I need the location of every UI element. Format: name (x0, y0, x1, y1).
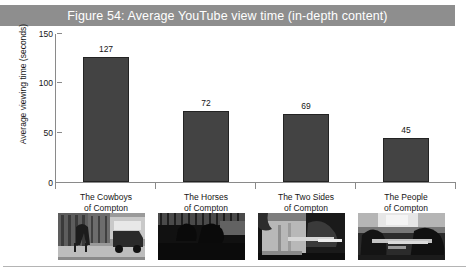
bar-value-the-horses-of-compton: 72 (176, 98, 236, 108)
bar-the-people-of-compton[interactable] (383, 138, 429, 182)
x-category-label-line2-1: of Compton (152, 203, 260, 214)
figure-caption-band: Figure 54: Average YouTube view time (in… (0, 5, 455, 26)
bar-chart: Average viewing time (seconds) 0 50 100 … (0, 26, 469, 208)
x-category-label-line2-0: of Compton (52, 203, 160, 214)
thumbnail-the-two-sides-of-compton[interactable] (258, 213, 345, 260)
y-tick-0: 0 (22, 178, 62, 188)
thumbnail-the-people-of-compton[interactable] (358, 213, 445, 260)
thumbnail-the-cowboys-of-compton[interactable] (58, 213, 145, 260)
x-category-label-the-cowboys-of-compton: The Cowboys of Compton (52, 192, 160, 213)
y-tick-label-0: 0 (48, 178, 53, 188)
y-axis-line (55, 34, 56, 183)
x-tick-mark-4 (455, 183, 456, 189)
bottom-divider (3, 266, 466, 267)
bar-the-horses-of-compton[interactable] (183, 111, 229, 182)
bar-value-the-cowboys-of-compton: 127 (76, 44, 136, 54)
bar-the-cowboys-of-compton[interactable] (83, 57, 129, 182)
x-tick-mark-1 (155, 183, 156, 189)
video-still-icon (358, 213, 445, 260)
video-still-icon (158, 213, 245, 260)
bar-value-the-two-sides-of-compton: 69 (276, 101, 336, 111)
y-tick-150: 150 (22, 29, 62, 39)
y-tick-label-150: 150 (39, 29, 53, 39)
y-tick-50: 50 (22, 128, 62, 138)
bar-value-the-people-of-compton: 45 (376, 125, 436, 135)
bar-the-two-sides-of-compton[interactable] (283, 114, 329, 182)
x-category-label-the-people-of-compton: The People of Compton (352, 192, 460, 213)
y-tick-label-100: 100 (39, 78, 53, 88)
y-tick-mark-150 (57, 33, 62, 34)
y-tick-mark-0 (57, 182, 62, 183)
x-category-label-the-horses-of-compton: The Horses of Compton (152, 192, 260, 213)
x-tick-mark-0 (55, 183, 56, 189)
x-category-label-line2-3: of Compton (352, 203, 460, 214)
y-tick-100: 100 (22, 78, 62, 88)
video-still-icon (258, 213, 345, 260)
x-category-label-the-two-sides-of-compton: The Two Sides of Compton (252, 192, 360, 213)
figure-caption-text: Figure 54: Average YouTube view time (in… (67, 9, 387, 23)
x-category-label-line1-0: The Cowboys (52, 192, 160, 203)
x-category-label-line1-3: The People (352, 192, 460, 203)
y-tick-mark-100 (57, 82, 62, 83)
thumbnail-the-horses-of-compton[interactable] (158, 213, 245, 260)
x-category-label-line1-2: The Two Sides (252, 192, 360, 203)
x-category-label-line1-1: The Horses (152, 192, 260, 203)
x-tick-mark-2 (255, 183, 256, 189)
y-tick-mark-50 (57, 132, 62, 133)
x-tick-mark-3 (355, 183, 356, 189)
x-category-label-line2-2: of Compton (252, 203, 360, 214)
y-tick-label-50: 50 (44, 128, 53, 138)
video-still-icon (58, 213, 145, 260)
